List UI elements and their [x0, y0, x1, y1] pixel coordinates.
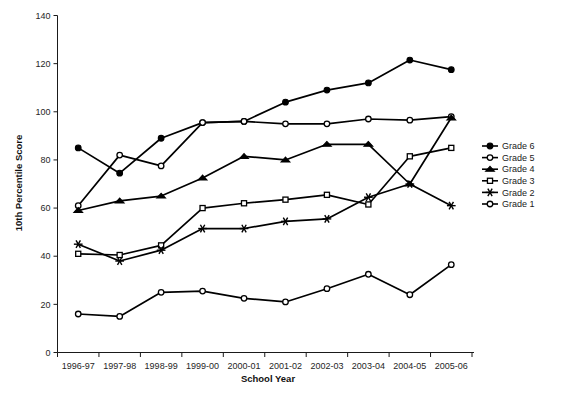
data-point-open-circle [324, 286, 330, 292]
data-point-filled-circle [158, 135, 164, 141]
legend-item-grade-1[interactable]: Grade 1 [482, 199, 535, 209]
legend-label: Grade 6 [502, 141, 535, 151]
y-tick-label: 120 [35, 59, 50, 69]
data-point-asterisk [74, 240, 83, 248]
y-tick-label: 0 [45, 348, 50, 358]
y-tick-label: 60 [40, 203, 50, 213]
legend-label: Grade 2 [502, 188, 535, 198]
data-point-asterisk [115, 257, 124, 265]
legend-item-grade-5[interactable]: Grade 5 [482, 153, 535, 163]
chart-canvas: 0204060801001201401996-971997-981998-991… [0, 0, 565, 399]
data-point-open-square [117, 252, 122, 257]
data-point-open-circle [366, 272, 372, 278]
y-tick-label: 100 [35, 107, 50, 117]
data-point-open-square [241, 201, 246, 206]
x-tick-label: 1999-00 [186, 361, 219, 371]
series-path [78, 118, 451, 211]
legend-label: Grade 1 [502, 199, 535, 209]
data-point-open-circle [487, 155, 493, 161]
data-point-open-circle [117, 314, 123, 320]
data-point-asterisk [198, 225, 207, 233]
data-point-asterisk [486, 189, 495, 197]
data-point-open-circle [407, 117, 413, 123]
legend-label: Grade 4 [502, 164, 535, 174]
data-point-open-square [487, 178, 492, 183]
legend-item-grade-2[interactable]: Grade 2 [482, 188, 535, 198]
line-chart: 0204060801001201401996-971997-981998-991… [0, 0, 565, 399]
data-point-open-square [76, 251, 81, 256]
data-point-open-square [407, 154, 412, 159]
data-point-open-circle [241, 296, 247, 302]
data-point-filled-circle [75, 145, 81, 151]
legend-item-grade-4[interactable]: Grade 4 [482, 164, 535, 174]
data-point-open-circle [324, 121, 330, 127]
x-tick-label: 2004-05 [393, 361, 426, 371]
data-point-asterisk [281, 218, 290, 226]
data-point-open-square [366, 202, 371, 207]
data-point-open-circle [366, 116, 372, 122]
data-point-filled-circle [407, 57, 413, 63]
legend-item-grade-3[interactable]: Grade 3 [482, 176, 535, 186]
data-point-filled-circle [117, 170, 123, 176]
series-path [78, 148, 451, 255]
x-tick-label: 1997-98 [103, 361, 136, 371]
data-point-open-circle [449, 262, 455, 268]
x-tick-label: 2000-01 [228, 361, 261, 371]
x-tick-label: 1998-99 [145, 361, 178, 371]
data-point-open-circle [241, 119, 247, 125]
series-grade-1 [75, 262, 454, 319]
data-point-open-circle [117, 152, 123, 158]
data-point-open-circle [283, 299, 289, 305]
x-tick-label: 1996-97 [62, 361, 95, 371]
data-point-open-square [324, 192, 329, 197]
data-point-asterisk [447, 202, 456, 210]
legend-item-grade-6[interactable]: Grade 6 [482, 141, 535, 151]
y-axis-title: 10th Percentile Score [13, 135, 24, 232]
y-tick-label: 140 [35, 11, 50, 21]
data-point-filled-circle [487, 143, 493, 149]
legend-label: Grade 5 [502, 153, 535, 163]
data-point-open-circle [200, 288, 206, 294]
x-tick-label: 2005-06 [435, 361, 468, 371]
data-point-asterisk [240, 225, 249, 233]
series-layer [74, 57, 456, 319]
x-tick-label: 2001-02 [269, 361, 302, 371]
data-point-open-square [283, 197, 288, 202]
data-point-open-circle [407, 292, 413, 298]
series-path [78, 265, 451, 317]
data-point-open-square [200, 206, 205, 211]
data-point-filled-circle [283, 99, 289, 105]
x-axis-title: School Year [241, 373, 296, 384]
data-point-open-circle [283, 121, 289, 127]
series-grade-5 [75, 114, 454, 209]
legend-label: Grade 3 [502, 176, 535, 186]
data-point-filled-circle [366, 80, 372, 86]
data-point-filled-circle [448, 67, 454, 73]
data-point-filled-circle [324, 87, 330, 93]
x-tick-label: 2002-03 [310, 361, 343, 371]
data-point-asterisk [323, 215, 332, 223]
data-point-open-circle [200, 120, 206, 126]
series-path [78, 60, 451, 173]
axes-layer: 0204060801001201401996-971997-981998-991… [35, 11, 474, 371]
data-point-open-circle [158, 163, 164, 169]
y-tick-label: 40 [40, 251, 50, 261]
data-point-open-circle [75, 311, 81, 317]
series-path [78, 184, 451, 261]
data-point-open-circle [158, 290, 164, 296]
data-point-open-square [449, 145, 454, 150]
y-tick-label: 80 [40, 155, 50, 165]
y-tick-label: 20 [40, 300, 50, 310]
x-tick-label: 2003-04 [352, 361, 385, 371]
data-point-open-circle [487, 201, 493, 207]
legend-layer: Grade 6Grade 5Grade 4Grade 3Grade 2Grade… [482, 141, 535, 209]
